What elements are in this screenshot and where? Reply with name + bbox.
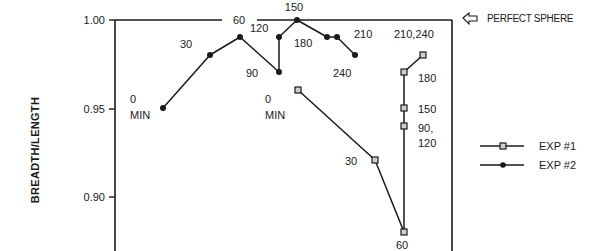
exp1-point-60 — [401, 229, 407, 235]
y-tick-label-100: 1.00 — [84, 14, 105, 26]
exp1-label-0-num: 0 — [265, 93, 271, 105]
exp1-point-150 — [401, 105, 407, 111]
exp2-point-60 — [237, 34, 243, 40]
exp1-label-0-unit: MIN — [265, 109, 285, 121]
plot-frame — [115, 20, 452, 251]
perfect-sphere-annotation: PERFECT SPHERE — [463, 13, 574, 24]
exp2-label-0-num: 0 — [130, 93, 136, 105]
perfect-sphere-label: PERFECT SPHERE — [487, 13, 574, 24]
exp1-point-0 — [295, 87, 301, 93]
exp1-label-90-120-b: 120 — [418, 137, 436, 149]
legend-item-exp1: EXP #1 — [480, 140, 576, 152]
y-tick-label-090: 0.90 — [84, 191, 105, 203]
exp2-label-150: 150 — [285, 1, 303, 13]
legend: EXP #1 EXP #2 — [480, 140, 576, 171]
exp2-label-60: 60 — [233, 14, 245, 26]
series-exp1-line — [298, 55, 423, 232]
exp2-label-90: 90 — [246, 67, 258, 79]
exp1-label-210-240: 210,240 — [394, 28, 434, 40]
exp2-label-240: 240 — [333, 67, 351, 79]
exp2-label-180: 180 — [294, 37, 312, 49]
series-exp1 — [295, 52, 426, 235]
y-tick-label-095: 0.95 — [84, 103, 105, 115]
exp1-label-180: 180 — [418, 72, 436, 84]
hollow-left-arrow-icon — [463, 13, 477, 24]
open-square-marker-icon — [500, 143, 506, 149]
exp2-point-180 — [324, 34, 330, 40]
exp2-label-210: 210 — [354, 28, 372, 40]
exp2-point-240 — [352, 52, 358, 58]
filled-circle-marker-icon — [500, 162, 506, 168]
exp2-point-0 — [160, 105, 166, 111]
exp1-label-150: 150 — [418, 103, 436, 115]
exp2-point-210 — [334, 34, 340, 40]
exp1-point-180 — [401, 69, 407, 75]
y-axis-title: BREADTH/LENGTH — [29, 97, 41, 203]
exp2-label-0-unit: MIN — [130, 109, 150, 121]
exp2-label-30: 30 — [180, 38, 192, 50]
exp2-label-120: 120 — [250, 22, 268, 34]
exp1-label-60: 60 — [396, 239, 408, 251]
exp1-label-30: 30 — [345, 155, 357, 167]
legend-label-exp1: EXP #1 — [539, 140, 576, 152]
exp2-point-30 — [207, 52, 213, 58]
legend-item-exp2: EXP #2 — [480, 159, 576, 171]
y-ticks — [109, 20, 115, 197]
legend-label-exp2: EXP #2 — [539, 159, 576, 171]
chart: BREADTH/LENGTH 1.00 0.95 0.90 PERFECT SP… — [0, 0, 608, 251]
exp2-point-90 — [276, 69, 282, 75]
exp1-point-90-120 — [401, 123, 407, 129]
exp1-label-90-120-a: 90, — [418, 122, 433, 134]
exp2-point-150 — [294, 17, 300, 23]
series-exp1-markers — [295, 52, 426, 235]
exp1-point-210-240 — [420, 52, 426, 58]
exp2-point-120 — [276, 34, 282, 40]
exp1-point-30 — [372, 157, 378, 163]
